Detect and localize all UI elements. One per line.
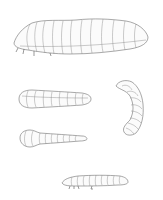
illustration-plate bbox=[0, 0, 163, 200]
grub-dorsal-figure-1 bbox=[16, 88, 92, 110]
small-larva-figure bbox=[60, 173, 130, 193]
curved-grub-figure bbox=[112, 78, 152, 138]
grub-dorsal-figure-2 bbox=[18, 128, 88, 148]
large-caterpillar-figure bbox=[10, 16, 150, 60]
